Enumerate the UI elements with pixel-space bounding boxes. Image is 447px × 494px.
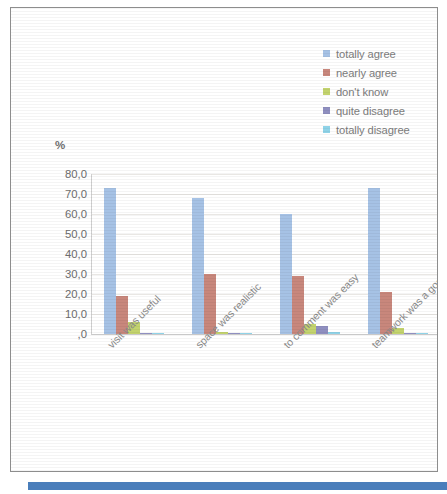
bar[interactable] [228, 333, 240, 334]
y-axis-tick-label: 70,0 [65, 188, 87, 200]
y-axis-tick-label: 40,0 [65, 248, 87, 260]
bar[interactable] [280, 214, 292, 334]
legend-item[interactable]: nearly agree [323, 63, 438, 82]
legend-item[interactable]: totally agree [323, 44, 438, 63]
bar[interactable] [404, 333, 416, 334]
bar[interactable] [240, 333, 252, 334]
legend-item-label: don't know [336, 86, 388, 98]
y-axis-unit-label: % [55, 139, 65, 151]
bar[interactable] [192, 198, 204, 334]
chart-legend: totally agreenearly agreedon't knowquite… [323, 44, 438, 139]
y-axis-tick-label: 20,0 [65, 288, 87, 300]
bar-group [192, 174, 252, 334]
legend-item-label: totally disagree [336, 124, 410, 136]
legend-swatch-icon [323, 69, 330, 76]
y-axis-tick-label: ,0 [78, 328, 87, 340]
legend-item[interactable]: don't know [323, 82, 438, 101]
legend-item[interactable]: quite disagree [323, 101, 438, 120]
bar[interactable] [328, 332, 340, 334]
bottom-accent-band [28, 482, 447, 490]
bar-group [368, 174, 428, 334]
legend-swatch-icon [323, 107, 330, 114]
y-axis-tick-label: 30,0 [65, 268, 87, 280]
legend-swatch-icon [323, 126, 330, 133]
bar[interactable] [140, 333, 152, 334]
y-axis-tick-label: 50,0 [65, 228, 87, 240]
legend-item-label: quite disagree [336, 105, 405, 117]
legend-swatch-icon [323, 88, 330, 95]
y-axis-tick-label: 60,0 [65, 208, 87, 220]
legend-item[interactable]: totally disagree [323, 120, 438, 139]
bar[interactable] [152, 333, 164, 334]
bar[interactable] [416, 333, 428, 334]
bar[interactable] [368, 188, 380, 334]
legend-swatch-icon [323, 50, 330, 57]
bar[interactable] [104, 188, 116, 334]
bar-group [104, 174, 164, 334]
legend-item-label: nearly agree [336, 67, 397, 79]
bar-group [280, 174, 340, 334]
bar[interactable] [316, 326, 328, 334]
y-axis-tick-label: 10,0 [65, 308, 87, 320]
y-axis-tick-label: 80,0 [65, 168, 87, 180]
legend-item-label: totally agree [336, 48, 396, 60]
chart-figure-frame: totally agreenearly agreedon't knowquite… [10, 7, 438, 472]
